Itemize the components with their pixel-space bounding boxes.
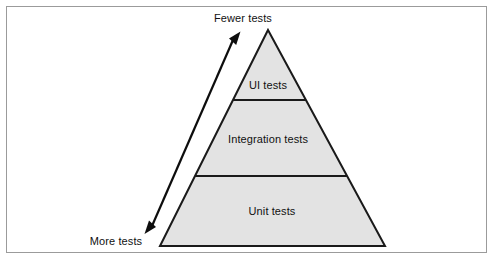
- pyramid-diagram-canvas: [0, 0, 493, 264]
- arrow-label-more-tests: More tests: [90, 235, 142, 247]
- pyramid-tier-label-integration-tests: Integration tests: [228, 133, 308, 145]
- pyramid-tier-label-ui-tests: UI tests: [249, 79, 287, 91]
- arrow-label-fewer-tests: Fewer tests: [214, 12, 272, 24]
- pyramid-tier-label-unit-tests: Unit tests: [249, 205, 296, 217]
- test-pyramid-figure: UI tests Integration tests Unit tests Fe…: [0, 0, 493, 264]
